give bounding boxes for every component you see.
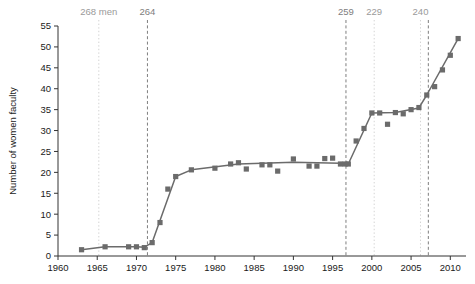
x-tick-label-2000: 2000	[361, 262, 382, 273]
annotation-label-240: 240	[413, 6, 429, 17]
data-point-marker	[432, 84, 437, 89]
y-tick-label-25: 25	[40, 146, 51, 157]
data-point-marker	[338, 161, 343, 166]
data-point-marker	[267, 162, 272, 167]
data-point-marker	[150, 240, 155, 245]
data-point-marker	[401, 111, 406, 116]
y-tick-label-10: 10	[40, 209, 51, 220]
data-point-marker	[126, 244, 131, 249]
data-point-marker	[165, 186, 170, 191]
x-tick-label-1980: 1980	[204, 262, 225, 273]
y-tick-label-35: 35	[40, 104, 51, 115]
data-point-marker	[244, 166, 249, 171]
x-tick-label-1970: 1970	[126, 262, 147, 273]
y-tick-label-55: 55	[40, 20, 51, 31]
y-tick-label-20: 20	[40, 167, 51, 178]
x-tick-label-1965: 1965	[87, 262, 108, 273]
series-line-0	[82, 39, 459, 250]
y-tick-label-45: 45	[40, 62, 51, 73]
data-point-marker	[79, 247, 84, 252]
y-tick-label-40: 40	[40, 83, 51, 94]
data-point-marker	[330, 156, 335, 161]
y-tick-label-15: 15	[40, 188, 51, 199]
data-point-marker	[228, 161, 233, 166]
data-point-marker	[173, 174, 178, 179]
x-tick-label-2005: 2005	[401, 262, 422, 273]
data-point-marker	[306, 163, 311, 168]
data-point-marker	[134, 244, 139, 249]
annotation-label-268-men: 268 men	[80, 6, 117, 17]
x-tick-label-1995: 1995	[322, 262, 343, 273]
data-point-marker	[275, 169, 280, 174]
y-tick-label-5: 5	[46, 229, 51, 240]
y-tick-label-50: 50	[40, 41, 51, 52]
data-point-marker	[393, 110, 398, 115]
data-point-marker	[189, 167, 194, 172]
data-point-marker	[259, 162, 264, 167]
annotation-label-264: 264	[140, 6, 156, 17]
x-tick-label-1960: 1960	[47, 262, 68, 273]
x-tick-label-1985: 1985	[244, 262, 265, 273]
data-point-marker	[291, 156, 296, 161]
data-point-marker	[346, 161, 351, 166]
data-point-marker	[361, 126, 366, 131]
data-point-marker	[314, 163, 319, 168]
data-point-marker	[157, 220, 162, 225]
data-point-marker	[440, 67, 445, 72]
annotation-label-229: 229	[366, 6, 382, 17]
y-tick-label-0: 0	[46, 250, 51, 261]
data-point-marker	[369, 110, 374, 115]
data-point-marker	[322, 156, 327, 161]
data-point-marker	[236, 160, 241, 165]
data-point-marker	[142, 245, 147, 250]
data-point-marker	[416, 105, 421, 110]
x-tick-label-1975: 1975	[165, 262, 186, 273]
data-point-marker	[102, 244, 107, 249]
chart-container: 268 men264259229240051015202530354045505…	[0, 0, 475, 284]
annotation-label-259: 259	[338, 6, 354, 17]
y-tick-label-30: 30	[40, 125, 51, 136]
data-point-marker	[408, 107, 413, 112]
x-tick-label-2010: 2010	[440, 262, 461, 273]
data-point-marker	[456, 36, 461, 41]
data-point-marker	[212, 166, 217, 171]
data-point-marker	[377, 110, 382, 115]
data-point-marker	[424, 92, 429, 97]
women-faculty-line-chart: 268 men264259229240051015202530354045505…	[0, 0, 475, 284]
data-point-marker	[448, 53, 453, 58]
x-tick-label-1990: 1990	[283, 262, 304, 273]
data-point-marker	[385, 122, 390, 127]
y-axis-title: Number of women faculty	[7, 87, 18, 195]
data-point-marker	[354, 138, 359, 143]
